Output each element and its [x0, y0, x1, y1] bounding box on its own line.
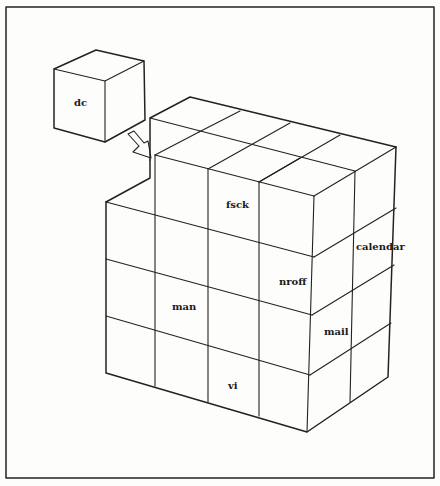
label-dc: dc	[74, 97, 87, 108]
cube-block: fsck calendar nroff man mail vi	[106, 97, 405, 432]
label-mail: mail	[324, 326, 349, 337]
label-nroff: nroff	[279, 276, 307, 287]
dc-cube: dc	[54, 50, 145, 142]
cube-diagram: dc fsck calendar	[0, 0, 440, 486]
label-vi: vi	[227, 380, 238, 391]
label-man: man	[172, 301, 197, 312]
label-fsck: fsck	[226, 199, 250, 210]
label-calendar: calendar	[356, 241, 405, 252]
arrow-icon	[128, 131, 151, 158]
diagram-canvas: dc fsck calendar	[0, 0, 440, 486]
